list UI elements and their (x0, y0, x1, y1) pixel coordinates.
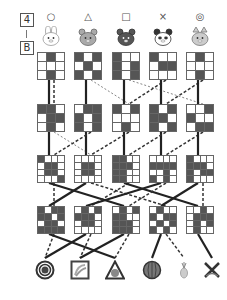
filled-cell (75, 114, 83, 122)
empty-cell (170, 207, 176, 213)
filled-cell (120, 221, 126, 227)
empty-cell (201, 156, 207, 162)
filled-cell (159, 62, 167, 70)
empty-cell (164, 207, 170, 213)
filled-cell (47, 114, 55, 122)
empty-cell (159, 53, 167, 61)
empty-cell (75, 221, 81, 227)
pattern-grid (37, 52, 65, 80)
empty-cell (133, 221, 139, 227)
empty-cell (82, 227, 88, 233)
connection-line-dashed (166, 234, 184, 258)
empty-cell (207, 176, 213, 182)
filled-cell (93, 123, 101, 131)
filled-cell (168, 123, 176, 131)
filled-cell (131, 62, 139, 70)
empty-cell (93, 62, 101, 70)
filled-cell (150, 214, 156, 220)
filled-cell (187, 170, 193, 176)
filled-cell (38, 207, 44, 213)
empty-cell (194, 176, 200, 182)
empty-cell (168, 53, 176, 61)
empty-cell (52, 156, 58, 162)
filled-cell (157, 163, 163, 169)
pattern-grid (74, 52, 102, 80)
empty-cell (56, 53, 64, 61)
pattern-grid (37, 104, 65, 132)
empty-cell (207, 163, 213, 169)
empty-cell (38, 62, 46, 70)
square-bananas-icon (70, 260, 90, 280)
filled-cell (194, 221, 200, 227)
pattern-grid (37, 155, 65, 183)
filled-cell (205, 105, 213, 113)
empty-cell (45, 207, 51, 213)
filled-cell (52, 227, 58, 233)
empty-cell (170, 227, 176, 233)
filled-cell (58, 227, 64, 233)
filled-cell (157, 221, 163, 227)
empty-cell (95, 176, 101, 182)
empty-cell (122, 53, 130, 61)
filled-cell (187, 156, 193, 162)
filled-cell (38, 227, 44, 233)
empty-cell (89, 176, 95, 182)
empty-cell (38, 170, 44, 176)
filled-cell (38, 214, 44, 220)
empty-cell (122, 71, 130, 79)
filled-cell (82, 207, 88, 213)
triangle-fruit-icon (105, 260, 125, 280)
filled-cell (95, 207, 101, 213)
empty-cell (131, 114, 139, 122)
empty-cell (187, 62, 195, 70)
empty-cell (127, 214, 133, 220)
filled-cell (194, 227, 200, 233)
filled-cell (93, 114, 101, 122)
empty-cell (95, 156, 101, 162)
empty-cell (47, 62, 55, 70)
puzzle-diagram: 4 B ○△□×◎ (0, 0, 227, 300)
empty-cell (84, 123, 92, 131)
filled-cell (45, 227, 51, 233)
empty-cell (95, 170, 101, 176)
filled-cell (150, 227, 156, 233)
filled-cell (45, 170, 51, 176)
empty-cell (56, 62, 64, 70)
empty-cell (187, 227, 193, 233)
filled-cell (84, 105, 92, 113)
filled-cell (150, 163, 156, 169)
column-symbol: ○ (41, 11, 61, 22)
dark-bear-icon (115, 26, 137, 46)
empty-cell (133, 214, 139, 220)
filled-cell (168, 105, 176, 113)
empty-cell (95, 227, 101, 233)
filled-cell (93, 71, 101, 79)
filled-cell (93, 105, 101, 113)
empty-cell (75, 170, 81, 176)
connection-line-dotted (129, 80, 203, 104)
empty-cell (133, 163, 139, 169)
filled-cell (47, 123, 55, 131)
filled-cell (150, 114, 158, 122)
filled-cell (120, 227, 126, 233)
empty-cell (150, 221, 156, 227)
panda-icon (152, 26, 174, 46)
empty-cell (168, 71, 176, 79)
empty-cell (127, 170, 133, 176)
filled-cell (75, 53, 83, 61)
empty-cell (133, 227, 139, 233)
pattern-grid (112, 206, 140, 234)
filled-cell (58, 176, 64, 182)
filled-cell (127, 227, 133, 233)
filled-cell (150, 176, 156, 182)
pattern-grid (112, 52, 140, 80)
filled-cell (45, 214, 51, 220)
filled-cell (113, 227, 119, 233)
empty-cell (157, 227, 163, 233)
filled-cell (164, 214, 170, 220)
empty-cell (58, 170, 64, 176)
empty-cell (157, 156, 163, 162)
empty-cell (95, 221, 101, 227)
pattern-grid (186, 104, 214, 132)
empty-cell (205, 71, 213, 79)
